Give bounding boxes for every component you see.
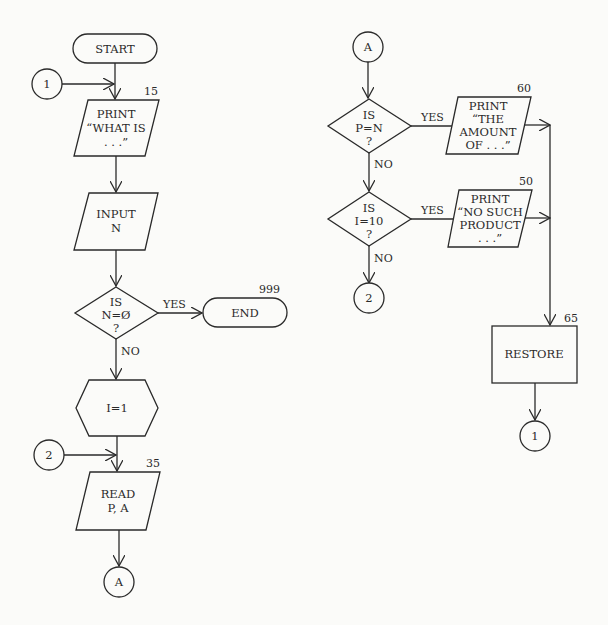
end-terminal: 999 END — [203, 283, 287, 327]
node-text: OF . . .” — [465, 138, 510, 152]
start-terminal: START — [73, 34, 157, 63]
line-number: 50 — [519, 175, 533, 188]
print-what-is-io: 15 PRINT “WHAT IS . . .” — [74, 85, 159, 156]
node-text: I=10 — [355, 214, 384, 228]
node-text: AMOUNT — [459, 125, 517, 139]
line-number: 15 — [144, 85, 158, 98]
init-i-preparation: I=1 — [76, 380, 158, 436]
yes-label: YES — [162, 298, 186, 311]
node-text: N=Ø — [101, 308, 130, 322]
start-label: START — [95, 42, 135, 56]
yes-label: YES — [420, 204, 444, 217]
decision-n-zero: IS N=Ø ? — [75, 287, 158, 339]
decision-p-eq-n: IS P=N ? — [328, 99, 411, 153]
node-text: PRINT — [97, 107, 136, 121]
node-text: IS — [110, 295, 123, 309]
connector-label: A — [114, 575, 124, 589]
yes-label: YES — [420, 111, 444, 124]
node-text: P, A — [107, 501, 129, 515]
node-text: “THE — [472, 112, 504, 126]
flowchart: START 1 15 PRINT “WHAT IS . . .” INPUT N… — [0, 0, 608, 625]
line-number: 35 — [146, 457, 160, 470]
node-text: PRINT — [471, 192, 510, 206]
node-text: . . .” — [478, 231, 502, 245]
node-text: RESTORE — [504, 347, 563, 361]
node-text: IS — [363, 108, 376, 122]
node-text: ? — [113, 321, 119, 335]
node-text: READ — [101, 487, 136, 501]
no-label: NO — [121, 345, 140, 358]
node-text: ? — [366, 227, 372, 241]
node-text: ? — [366, 134, 372, 148]
node-text: P=N — [355, 121, 382, 135]
connector-label: 1 — [531, 429, 538, 443]
connector-label: A — [363, 40, 373, 54]
no-label: NO — [374, 158, 393, 171]
node-text: I=1 — [106, 401, 128, 415]
connector-1-out: 1 — [520, 421, 550, 451]
node-text: PRINT — [469, 99, 508, 113]
print-no-such-io: 50 PRINT “NO SUCH PRODUCT . . .” — [448, 175, 533, 247]
no-label: NO — [374, 252, 393, 265]
node-text: “WHAT IS — [86, 121, 146, 135]
node-text: N — [111, 221, 121, 235]
read-pa-io: 35 READ P, A — [76, 457, 160, 530]
decision-i-eq-10: IS I=10 ? — [328, 192, 411, 246]
flowchart-canvas: START 1 15 PRINT “WHAT IS . . .” INPUT N… — [0, 0, 608, 625]
input-n-io: INPUT N — [74, 193, 158, 250]
node-text: IS — [363, 201, 376, 215]
restore-process: 65 RESTORE — [492, 312, 578, 383]
connector-label: 2 — [45, 448, 52, 462]
connector-a-out: A — [104, 567, 134, 597]
connector-1-in: 1 — [32, 69, 62, 99]
end-label: END — [231, 306, 259, 320]
connector-2-in: 2 — [34, 440, 64, 470]
connector-a-in: A — [353, 32, 383, 62]
line-number: 65 — [564, 312, 578, 325]
line-number: 999 — [259, 283, 280, 296]
node-text: PRODUCT — [459, 218, 521, 232]
node-text: . . .” — [104, 135, 128, 149]
connector-label: 1 — [43, 77, 50, 91]
connector-label: 2 — [365, 291, 372, 305]
print-amount-io: 60 PRINT “THE AMOUNT OF . . .” — [446, 82, 531, 154]
node-text: “NO SUCH — [457, 205, 522, 219]
line-number: 60 — [517, 82, 531, 95]
connector-2-out: 2 — [354, 283, 384, 313]
node-text: INPUT — [96, 207, 136, 221]
